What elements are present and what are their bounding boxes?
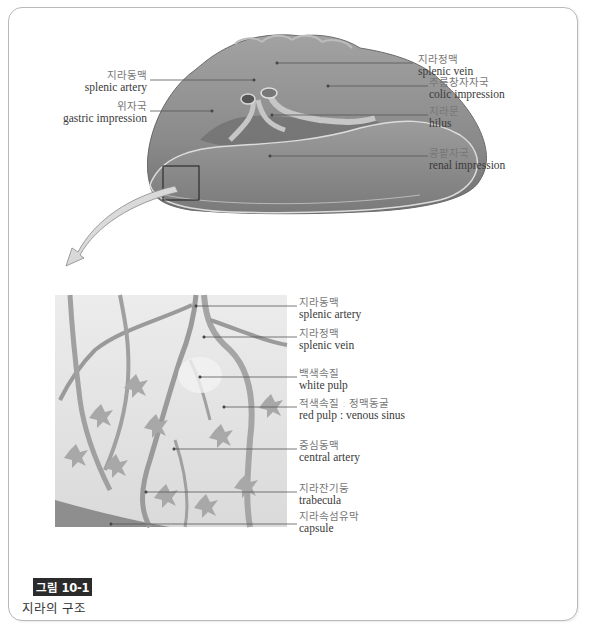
label-capsule: 지라속섬유막 capsule <box>299 511 359 534</box>
label-white-pulp: 백색속질 white pulp <box>299 368 348 391</box>
label-ko: 지라잔기둥 <box>299 483 349 494</box>
label-en: capsule <box>299 522 359 534</box>
label-ko: 콩팥자국 <box>429 148 505 159</box>
label-splenic-vein-bottom: 지라정맥 splenic vein <box>299 328 354 351</box>
label-ko: 주름창자자국 <box>429 77 505 88</box>
label-ko: 지라동맥 <box>85 70 147 81</box>
label-ko: 지라정맥 <box>418 54 473 65</box>
label-en: red pulp : venous sinus <box>299 409 405 421</box>
label-ko: 지라문 <box>429 106 459 117</box>
label-ko: 지라정맥 <box>299 328 354 339</box>
label-red-pulp: 적색속질 : 정맥동굴 red pulp : venous sinus <box>299 398 405 421</box>
label-gastric-impression: 위자국 gastric impression <box>63 101 147 124</box>
label-colic-impression: 주름창자자국 colic impression <box>429 77 505 100</box>
label-splenic-vein-top: 지라정맥 splenic vein <box>418 54 473 77</box>
label-ko: 위자국 <box>63 101 147 112</box>
label-splenic-artery-top: 지라동맥 splenic artery <box>85 70 147 93</box>
label-en: hilus <box>429 117 459 129</box>
label-en: splenic vein <box>299 339 354 351</box>
label-central-artery: 중심동맥 central artery <box>299 440 360 463</box>
label-en: central artery <box>299 451 360 463</box>
label-en: renal impression <box>429 159 505 171</box>
label-en: white pulp <box>299 379 348 391</box>
label-renal-impression: 콩팥자국 renal impression <box>429 148 505 171</box>
label-ko: 백색속질 <box>299 368 348 379</box>
figure-caption: 지라의 구조 <box>22 598 86 617</box>
label-en: trabecula <box>299 494 349 506</box>
label-splenic-artery-bottom: 지라동맥 splenic artery <box>299 297 361 320</box>
label-ko: 지라속섬유막 <box>299 511 359 522</box>
label-ko: 중심동맥 <box>299 440 360 451</box>
label-ko: 적색속질 : 정맥동굴 <box>299 398 405 409</box>
label-hilus: 지라문 hilus <box>429 106 459 129</box>
figure-number-badge: 그림 10-1 <box>33 578 92 596</box>
label-en: splenic artery <box>85 81 147 93</box>
label-ko: 지라동맥 <box>299 297 361 308</box>
label-trabecula: 지라잔기둥 trabecula <box>299 483 349 506</box>
label-en: gastric impression <box>63 112 147 124</box>
label-en: splenic artery <box>299 308 361 320</box>
label-en: colic impression <box>429 88 505 100</box>
